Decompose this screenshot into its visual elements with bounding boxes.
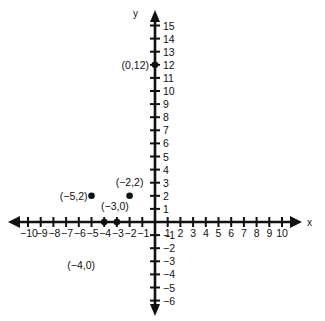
point-label: (−2,2) (116, 176, 144, 188)
x-axis-right-arrow-icon (290, 216, 302, 228)
y-tick-label: −2 (163, 242, 175, 254)
y-tick-label: −5 (163, 282, 175, 294)
x-tick-label: −2 (125, 227, 137, 239)
data-point (126, 193, 133, 200)
x-axis-label: x (307, 217, 312, 228)
point-label: (−3,0) (101, 200, 129, 212)
y-tick-label: −6 (163, 295, 175, 307)
point-label: (0,12) (122, 59, 149, 71)
x-tick-label: 7 (241, 227, 247, 239)
x-axis-left-arrow-icon (8, 216, 20, 228)
x-tick-label: 4 (203, 227, 209, 239)
x-tick-label: 10 (276, 227, 288, 239)
y-tick-label: 10 (163, 85, 175, 97)
point-labels: (0,12)(−5,2)(−2,2)(−3,0)(−4,0) (60, 59, 149, 271)
x-tick-label: 3 (190, 227, 196, 239)
x-tick-label: −4 (99, 227, 111, 239)
x-tick-label: 9 (266, 227, 272, 239)
coordinate-plane: −10−9−8−7−6−5−4−3−2−112345678910−6−5−4−3… (0, 0, 325, 321)
data-point (114, 219, 121, 226)
x-tick-label: 2 (177, 227, 183, 239)
y-tick-label: 13 (163, 46, 175, 58)
y-tick-label: 6 (163, 137, 169, 149)
y-tick-label: 15 (163, 20, 175, 32)
y-tick-label: 5 (163, 151, 169, 163)
data-point (88, 193, 95, 200)
x-tick-label: −1 (137, 227, 149, 239)
x-tick-label: −5 (87, 227, 99, 239)
y-axis-up-arrow-icon (150, 10, 160, 22)
x-tick-label: −3 (112, 227, 124, 239)
y-tick-label: 8 (163, 111, 169, 123)
y-tick-label: 3 (163, 177, 169, 189)
y-tick-label: 1 (163, 203, 169, 215)
y-tick-label: 11 (163, 72, 174, 84)
point-label: (−5,2) (60, 190, 88, 202)
y-tick-label: −1 (163, 229, 175, 241)
data-point (152, 62, 159, 69)
y-tick-label: −4 (163, 268, 175, 280)
y-tick-label: 2 (163, 190, 169, 202)
x-tick-label: 5 (216, 227, 222, 239)
x-tick-label: 8 (254, 227, 260, 239)
y-tick-label: 12 (163, 59, 175, 71)
x-tick-label: −7 (61, 227, 73, 239)
y-tick-label: 7 (163, 124, 169, 136)
x-tick-label: −6 (74, 227, 86, 239)
y-tick-label: 4 (163, 164, 169, 176)
y-axis-down-arrow-icon (150, 304, 160, 316)
y-tick-label: −3 (163, 255, 175, 267)
axes (8, 10, 302, 316)
x-tick-label: 6 (228, 227, 234, 239)
x-tick-label: −8 (48, 227, 60, 239)
y-tick-label: 14 (163, 33, 175, 45)
y-tick-label: 9 (163, 98, 169, 110)
point-label: (−4,0) (67, 259, 95, 271)
data-point (101, 219, 108, 226)
x-tick-label: −9 (36, 227, 48, 239)
y-axis-label: y (133, 8, 138, 19)
